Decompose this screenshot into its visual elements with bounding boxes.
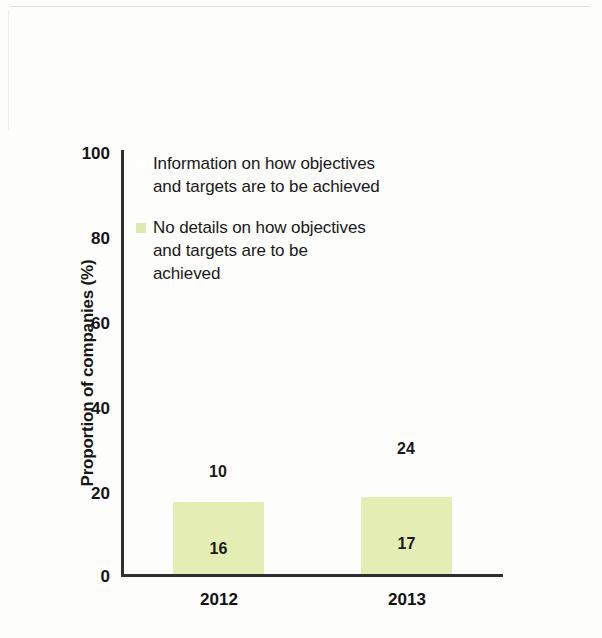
legend-label-no-details: No details on how objectives and targets… bbox=[153, 216, 366, 285]
y-tick-label-100: 100 bbox=[48, 145, 110, 162]
bar-2013-value-label: 17 bbox=[361, 535, 452, 553]
scan-artifact-line bbox=[10, 6, 590, 7]
legend-label-no-details-line1: No details on how objectives bbox=[153, 218, 366, 237]
legend-label-information-line2: and targets are to be achieved bbox=[153, 177, 380, 196]
y-tick-label-60: 60 bbox=[48, 315, 110, 332]
y-tick-label-20: 20 bbox=[48, 485, 110, 502]
bar-2013[interactable]: 17 bbox=[361, 497, 452, 574]
legend-label-no-details-line2: and targets are to be bbox=[153, 241, 308, 260]
legend-label-information-line1: Information on how objectives bbox=[153, 154, 375, 173]
legend-entry-no-details[interactable]: No details on how objectives and targets… bbox=[136, 216, 456, 285]
x-tick-label-2012: 2012 bbox=[154, 590, 284, 610]
legend-entry-information[interactable]: Information on how objectives and target… bbox=[136, 152, 456, 198]
legend-label-no-details-line3: achieved bbox=[153, 264, 220, 283]
y-tick-label-0: 0 bbox=[48, 568, 110, 585]
y-axis-title: Proportion of companies (%) bbox=[78, 218, 98, 528]
y-tick-label-80: 80 bbox=[48, 230, 110, 247]
bar-2012[interactable]: 16 bbox=[173, 502, 264, 574]
legend-swatch-icon-no-details bbox=[136, 223, 146, 233]
legend-swatch-icon-information bbox=[136, 159, 146, 169]
bar-chart-figure: Proportion of companies (%) 100 80 60 40… bbox=[0, 0, 602, 638]
y-tick-label-40: 40 bbox=[48, 400, 110, 417]
bar-2013-above-label: 24 bbox=[346, 440, 466, 458]
legend-label-information: Information on how objectives and target… bbox=[153, 152, 380, 198]
bar-2012-value-label: 16 bbox=[173, 540, 264, 558]
x-axis-line bbox=[121, 574, 503, 577]
bar-2012-above-label: 10 bbox=[158, 463, 278, 481]
scan-artifact-edge bbox=[8, 10, 9, 130]
chart-legend: Information on how objectives and target… bbox=[136, 152, 456, 299]
x-tick-label-2013: 2013 bbox=[342, 590, 472, 610]
